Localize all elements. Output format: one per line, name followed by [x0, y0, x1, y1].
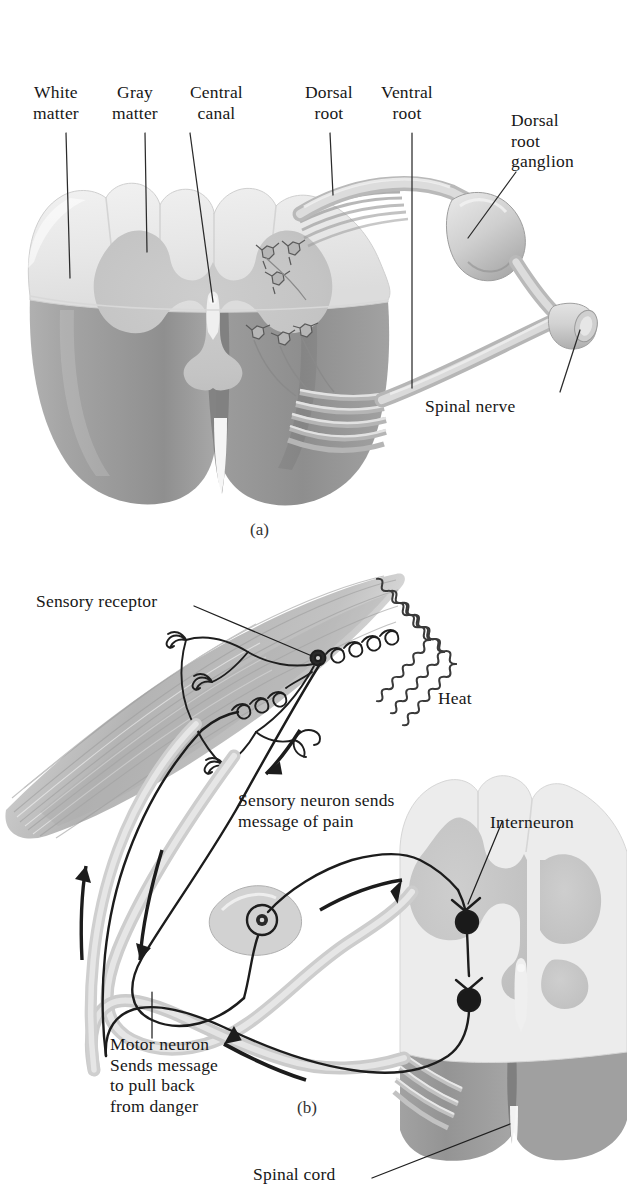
label-heat: Heat [438, 688, 472, 709]
label-sensory-neuron: Sensory neuron sends message of pain [238, 790, 395, 831]
spinal-cord-segment-b [394, 776, 627, 1161]
arrow-motor-ascending [75, 866, 91, 960]
label-gray-matter: Gray matter [112, 82, 158, 123]
label-interneuron: Interneuron [490, 812, 574, 833]
label-sensory-receptor: Sensory receptor [36, 591, 157, 612]
panel-b-caption: (b) [297, 1098, 317, 1118]
motor-neuron-soma [458, 989, 480, 1011]
label-spinal-nerve: Spinal nerve [425, 396, 515, 417]
leader-dorsal-root [330, 133, 333, 195]
label-dorsal-root: Dorsal root [305, 82, 353, 123]
figure-spinal-reflex: White matter Gray matter Central canal D… [0, 0, 627, 1200]
label-dorsal-root-ganglion: Dorsal root ganglion [511, 110, 574, 172]
arrow-sensory-from-receptor [266, 730, 300, 777]
label-motor-neuron: Motor neuron Sends message to pull back … [110, 1034, 218, 1117]
interneuron-soma [456, 911, 478, 933]
label-white-matter: White matter [33, 82, 79, 123]
label-spinal-cord: Spinal cord [253, 1164, 335, 1185]
panel-a-caption: (a) [250, 520, 269, 540]
spinal-nerve [548, 303, 600, 349]
label-central-canal: Central canal [190, 82, 243, 123]
label-ventral-root: Ventral root [381, 82, 433, 123]
